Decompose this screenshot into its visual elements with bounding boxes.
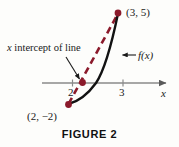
label-point-2-neg2: (2, −2) [27,111,57,122]
tick-label-2: 2 [68,87,74,98]
graph-canvas [0,0,179,147]
label-x-intercept-of-line: x intercept of line [7,43,81,54]
axis-label-x: x [161,88,166,99]
secant-line-dashed [69,14,119,105]
label-function-fx: f(x) [138,50,153,61]
figure-caption: FIGURE 2 [0,128,179,140]
point-dot-high [115,10,122,17]
figure-2-container: (3, 5) (2, −2) x intercept of line f(x) … [0,0,179,147]
label-x-intercept-text: intercept of line [12,42,81,53]
point-dot-x-intercept [79,79,86,86]
tick-label-3: 3 [119,87,125,98]
x-axis-group [42,80,166,87]
label-point-3-5: (3, 5) [126,7,150,18]
intercept-callout-arrow [66,57,80,79]
point-dot-low [65,101,72,108]
